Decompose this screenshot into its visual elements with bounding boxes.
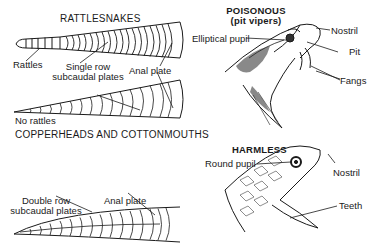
anal-plate-label-rattlesnake: Anal plate — [129, 66, 171, 76]
single-row-label-line2: subcaudal plates — [48, 72, 128, 82]
nostril-label-poisonous: Nostril — [331, 26, 358, 36]
double-row-label-line2: subcaudal plates — [8, 206, 84, 216]
poisonous-heading-block: POISONOUS (pit vipers) — [226, 6, 286, 26]
anal-plate-label-copperhead: Anal plate — [104, 196, 146, 206]
elliptical-pupil-label: Elliptical pupil — [192, 34, 250, 44]
harmless-heading: HARMLESS — [232, 144, 287, 155]
teeth-label: Teeth — [339, 201, 362, 211]
fangs-label: Fangs — [340, 76, 366, 86]
nostril-label-harmless: Nostril — [333, 168, 360, 178]
single-row-label: Single row subcaudal plates — [48, 62, 128, 82]
double-row-label: Double row subcaudal plates — [8, 196, 84, 216]
pit-vipers-subheading: (pit vipers) — [226, 16, 286, 26]
rattlesnake-tail-illustration — [16, 22, 183, 58]
round-pupil-label: Round pupil — [205, 159, 256, 169]
copperheads-heading: COPPERHEADS AND COTTONMOUTHS — [15, 129, 209, 140]
rattles-label: Rattles — [13, 60, 43, 70]
no-rattles-tail-illustration — [14, 80, 183, 118]
no-rattles-label: No rattles — [15, 116, 56, 126]
pit-label: Pit — [349, 47, 360, 57]
rattlesnakes-heading: RATTLESNAKES — [60, 13, 141, 24]
